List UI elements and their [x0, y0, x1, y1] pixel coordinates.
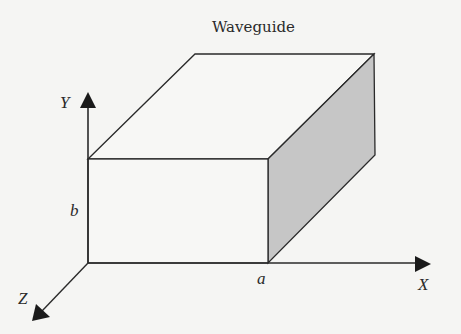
diagram-title: Waveguide — [212, 18, 295, 36]
front-face — [88, 159, 268, 263]
height-label-b: b — [70, 201, 79, 220]
z-axis-arrow-icon — [32, 304, 50, 321]
z-axis-label: Z — [18, 289, 28, 308]
y-axis-label: Y — [60, 93, 71, 112]
width-label-a: a — [257, 269, 266, 288]
x-axis-label: X — [417, 275, 429, 294]
waveguide-diagram: Waveguide Y X Z b a — [0, 0, 461, 334]
y-axis-arrow-icon — [80, 92, 96, 108]
diagram-svg: Waveguide Y X Z b a — [0, 0, 461, 334]
z-axis — [42, 263, 88, 311]
x-axis-arrow-icon — [415, 256, 431, 272]
